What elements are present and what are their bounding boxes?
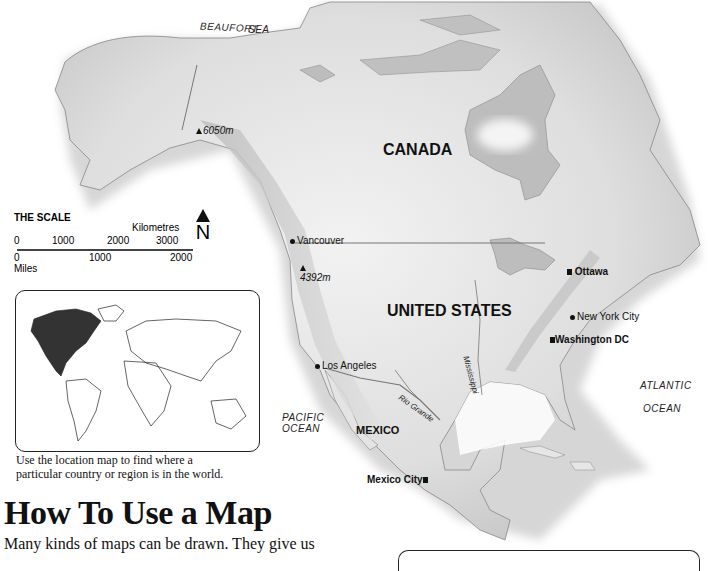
country-label-canada: CANADA <box>383 141 452 159</box>
locator-south-america <box>66 379 101 441</box>
city-dot-icon <box>290 239 295 244</box>
atlantic-ocean-label-2: OCEAN <box>643 403 681 414</box>
north-label: N <box>193 222 213 242</box>
locator-north-america <box>31 309 101 376</box>
country-label-mexico: MEXICO <box>356 424 399 436</box>
capital-square-icon <box>567 269 572 275</box>
pacific-ocean-label: PACIFIC <box>282 412 324 423</box>
locator-australia <box>211 399 246 429</box>
locator-africa <box>124 361 171 426</box>
hudson-bay-highlight <box>477 119 533 151</box>
atlantic-ocean-label: ATLANTIC <box>640 380 692 391</box>
locator-eurasia <box>126 319 241 381</box>
capital-square-icon <box>423 477 428 483</box>
city-ottawa: Ottawa <box>567 266 608 277</box>
locator-greenland <box>98 305 124 321</box>
location-map-caption: Use the location map to find where a par… <box>16 453 223 481</box>
beaufort-sea-label-2: SEA <box>248 24 270 35</box>
peak-mckinley: 6050m <box>196 125 234 136</box>
scale-mi-tick: 1000 <box>89 252 111 263</box>
scale-mi-tick: 0 <box>14 252 20 263</box>
city-dot-icon <box>570 315 575 320</box>
page-heading: How To Use a Map <box>4 494 272 532</box>
map-scale: THE SCALE Kilometres 0 1000 2000 3000 0 … <box>10 207 220 277</box>
intro-paragraph: Many kinds of maps can be drawn. They gi… <box>4 535 315 553</box>
scale-bar <box>17 249 193 251</box>
scale-unit-miles: Miles <box>14 263 37 274</box>
city-los-angeles: Los Angeles <box>315 360 377 371</box>
peak-rainier-label: 4392m <box>300 272 331 283</box>
peak-triangle-icon <box>300 265 306 271</box>
scale-mi-tick: 2000 <box>170 252 192 263</box>
city-new-york: New York City <box>570 311 639 322</box>
scale-km-tick: 2000 <box>107 235 129 246</box>
caption-line: particular country or region is in the w… <box>16 467 223 481</box>
north-arrow: N <box>193 209 213 249</box>
country-label-usa: UNITED STATES <box>387 302 512 320</box>
pacific-ocean-label-2: OCEAN <box>282 423 320 434</box>
scale-km-tick: 3000 <box>156 235 178 246</box>
city-washington-dc: Washington DC <box>550 334 629 345</box>
scale-title: THE SCALE <box>14 212 71 223</box>
city-mexico-city: Mexico City <box>367 474 428 485</box>
city-dot-icon <box>315 364 320 369</box>
scale-km-tick: 0 <box>14 235 20 246</box>
scale-km-tick: 1000 <box>52 235 74 246</box>
location-map <box>15 290 260 452</box>
peak-triangle-icon <box>196 128 202 134</box>
scale-unit-km: Kilometres <box>132 222 179 233</box>
caption-line: Use the location map to find where a <box>16 453 223 467</box>
city-vancouver: Vancouver <box>290 235 344 246</box>
info-box <box>398 550 700 571</box>
